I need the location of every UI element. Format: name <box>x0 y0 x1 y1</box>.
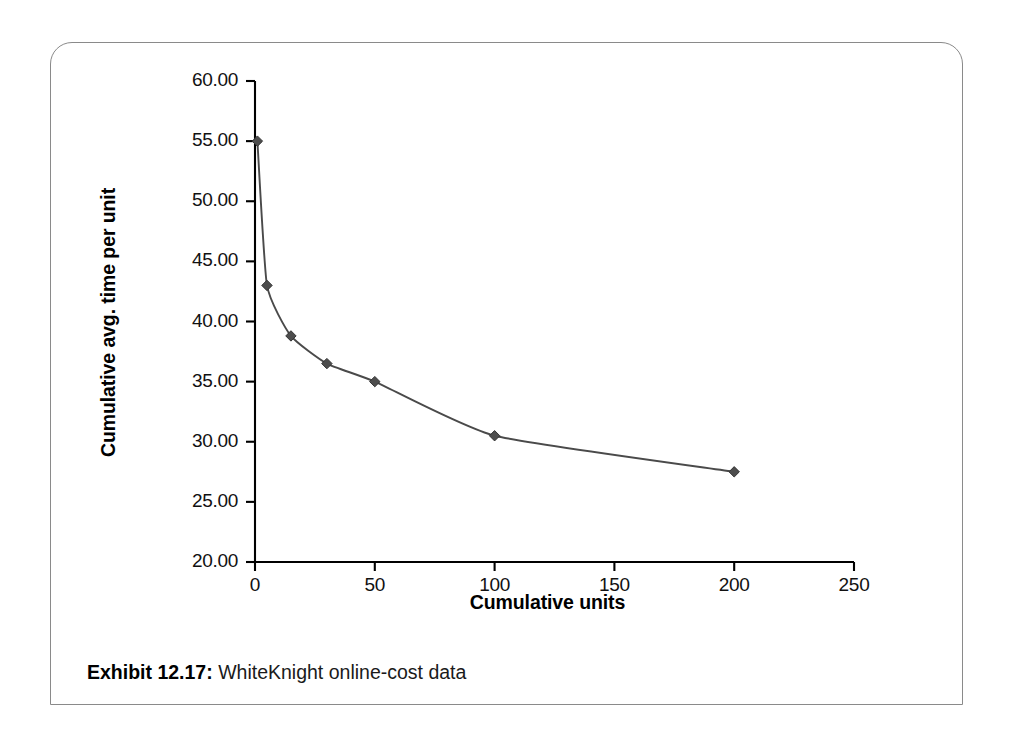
y-tick-label: 50.00 <box>152 189 238 211</box>
caption-label: Exhibit 12.17: <box>87 661 213 683</box>
y-tick-label: 30.00 <box>152 430 238 452</box>
data-point-marker <box>322 358 332 368</box>
axes-group <box>246 81 854 571</box>
x-tick-label: 200 <box>699 574 769 596</box>
exhibit-caption: Exhibit 12.17: WhiteKnight online-cost d… <box>87 661 466 684</box>
data-point-marker <box>370 376 380 386</box>
y-axis-title: Cumulative avg. time per unit <box>97 158 120 488</box>
x-tick-label: 100 <box>460 574 530 596</box>
y-tick-label: 35.00 <box>152 370 238 392</box>
y-tick-label: 55.00 <box>152 129 238 151</box>
x-tick-label: 0 <box>220 574 290 596</box>
data-point-marker <box>489 431 499 441</box>
x-tick-label: 50 <box>340 574 410 596</box>
exhibit-frame: Cumulative avg. time per unit Cumulative… <box>50 42 963 705</box>
y-tick-label: 45.00 <box>152 249 238 271</box>
page-root: Cumulative avg. time per unit Cumulative… <box>0 0 1012 747</box>
caption-text: WhiteKnight online-cost data <box>218 661 466 683</box>
data-series-group <box>252 136 739 477</box>
x-tick-label: 150 <box>579 574 649 596</box>
y-tick-label: 20.00 <box>152 550 238 572</box>
data-point-marker <box>262 280 272 290</box>
data-point-marker <box>252 136 262 146</box>
y-tick-label: 60.00 <box>152 69 238 91</box>
data-point-marker <box>729 467 739 477</box>
x-tick-label: 250 <box>819 574 889 596</box>
y-tick-label: 40.00 <box>152 310 238 332</box>
chart-area: Cumulative avg. time per unit Cumulative… <box>51 43 964 643</box>
series-line-0 <box>257 141 734 472</box>
y-tick-label: 25.00 <box>152 490 238 512</box>
